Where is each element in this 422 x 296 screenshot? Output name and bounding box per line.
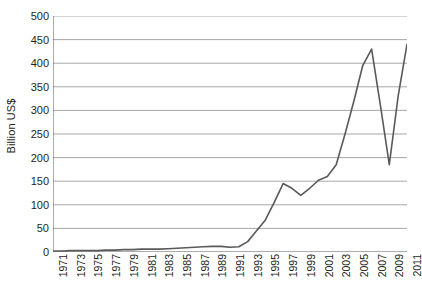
x-axis-tick-label: 1995 xyxy=(269,254,281,277)
x-axis-tick-label: 1997 xyxy=(287,254,299,277)
y-axis-tick-labels: 050100150200250300350400450500 xyxy=(20,0,49,296)
line-chart: Billion US$ 0501001502002503003504004505… xyxy=(0,0,422,296)
y-axis-tick-label: 400 xyxy=(31,57,49,69)
y-axis-tick-label: 450 xyxy=(31,34,49,46)
y-axis-tick-label: 500 xyxy=(31,10,49,22)
x-axis-tick-label: 2011 xyxy=(411,254,422,277)
x-axis-tick-label: 1993 xyxy=(252,254,264,277)
x-axis-tick-label: 1981 xyxy=(146,254,158,277)
x-axis-tick-label: 1973 xyxy=(75,254,87,277)
y-axis-tick-label: 50 xyxy=(37,222,49,234)
x-axis-tick-label: 1971 xyxy=(57,254,69,277)
plot-svg xyxy=(53,16,407,252)
y-axis-tick-label: 300 xyxy=(31,104,49,116)
x-axis-tick-label: 1979 xyxy=(128,254,140,277)
x-axis-tick-label: 1987 xyxy=(199,254,211,277)
y-axis-tick-label: 250 xyxy=(31,128,49,140)
x-axis-tick-label: 2001 xyxy=(323,254,335,277)
x-axis-tick-label: 1989 xyxy=(216,254,228,277)
y-axis-tick-label: 100 xyxy=(31,199,49,211)
x-axis-tick-labels: 1971197319751977197919811983198519871989… xyxy=(53,254,407,296)
x-axis-tick-label: 1977 xyxy=(110,254,122,277)
y-axis-tick-label: 0 xyxy=(43,246,49,258)
gridlines xyxy=(53,16,407,228)
x-axis-tick-label: 2009 xyxy=(393,254,405,277)
y-axis-title: Billion US$ xyxy=(0,0,22,252)
data-series-line xyxy=(53,44,407,251)
x-axis-tick-label: 2007 xyxy=(376,254,388,277)
x-axis-tick-label: 1975 xyxy=(92,254,104,277)
y-axis-title-label: Billion US$ xyxy=(5,99,17,154)
x-axis-tick-label: 1991 xyxy=(234,254,246,277)
y-axis-tick-label: 150 xyxy=(31,175,49,187)
plot-area xyxy=(53,16,407,252)
x-axis-tick-label: 1983 xyxy=(163,254,175,277)
x-axis-tick-label: 2003 xyxy=(340,254,352,277)
y-axis-tick-label: 350 xyxy=(31,81,49,93)
x-axis-tick-label: 1985 xyxy=(181,254,193,277)
y-axis-tick-label: 200 xyxy=(31,152,49,164)
x-axis-tick-label: 2005 xyxy=(358,254,370,277)
x-axis-tick-label: 1999 xyxy=(305,254,317,277)
